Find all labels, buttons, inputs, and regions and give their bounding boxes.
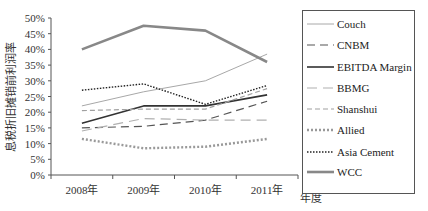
y-tick-label: 10%: [25, 138, 45, 150]
y-tick-label: 0%: [30, 169, 45, 181]
y-axis-title: 息税折旧摊销前利润率: [4, 42, 18, 152]
x-tick-label: 2009年: [127, 183, 160, 196]
y-tick-label: 20%: [25, 106, 45, 118]
legend-label: Asia Cement: [337, 146, 394, 158]
legend-label: BBMG: [337, 82, 369, 94]
legend-label: WCC: [337, 166, 362, 178]
y-tick-label: 15%: [25, 122, 45, 134]
x-tick-label: 2008年: [65, 183, 98, 196]
series-line-asia-cement: [82, 84, 267, 104]
y-tick-label: 25%: [25, 91, 45, 103]
legend-label: CNBM: [337, 39, 370, 51]
legend-label: EBITDA Margin: [337, 61, 412, 73]
y-tick-label: 40%: [25, 43, 45, 55]
line-chart: 息税折旧摊销前利润率 0%5%10%15%20%25%30%35%40%45%5…: [0, 0, 428, 211]
series-lines: [82, 26, 267, 149]
series-line-wcc: [82, 26, 267, 62]
y-tick-label: 45%: [25, 28, 45, 40]
series-line-bbmg: [82, 119, 267, 132]
series-line-allied: [82, 139, 267, 148]
x-tick-label: 2011年: [251, 183, 284, 196]
series-line-couch: [82, 54, 267, 106]
y-tick-label: 30%: [25, 75, 45, 87]
legend-label: Shanshui: [337, 103, 377, 115]
y-axis-title-text: 息税折旧摊销前利润率: [4, 42, 18, 152]
y-tick-label: 50%: [25, 12, 45, 24]
y-tick-label: 35%: [25, 59, 45, 71]
legend-label: Couch: [337, 18, 366, 30]
y-axis: 0%5%10%15%20%25%30%35%40%45%50%: [25, 12, 51, 181]
x-tick-label: 2010年: [189, 183, 222, 196]
legend: CouchCNBMEBITDA MarginBBMGShanshuiAllied…: [303, 11, 415, 194]
x-axis: 2008年2009年2010年2011年: [51, 175, 298, 196]
y-tick-label: 5%: [30, 153, 45, 165]
legend-label: Allied: [337, 124, 365, 136]
